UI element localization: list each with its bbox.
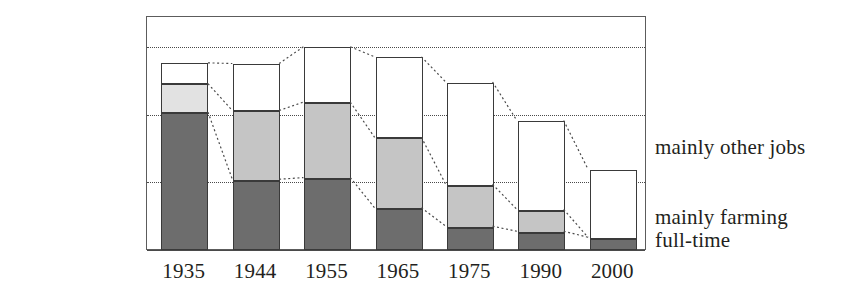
x-tick-label-1965: 1965 (358, 261, 438, 282)
x-tick-label-1955: 1955 (287, 261, 367, 282)
x-tick-label-1990: 1990 (501, 261, 581, 282)
stacked-bar-chart: 02,000,0004,000,0006,000,000 19351944195… (0, 0, 853, 287)
legend-label-mainly-farming: mainly farming (655, 206, 788, 229)
legend-label-mainly-other-jobs: mainly other jobs (655, 136, 805, 159)
x-tick-label-2000: 2000 (572, 261, 652, 282)
legend-label-full-time: full-time (655, 229, 730, 252)
x-tick-label-1975: 1975 (429, 261, 509, 282)
x-tick-label-1935: 1935 (144, 261, 224, 282)
x-tick-label-1944: 1944 (215, 261, 295, 282)
chart-legend: mainly other jobsmainly farmingfull-time (655, 0, 853, 287)
